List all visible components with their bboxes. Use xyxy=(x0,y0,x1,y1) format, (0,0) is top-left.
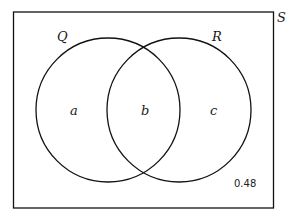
universe-label: S xyxy=(277,10,286,25)
region-c-label: c xyxy=(210,103,218,118)
set-q-circle xyxy=(36,38,180,182)
set-q-label: Q xyxy=(57,29,68,44)
region-b-label: b xyxy=(141,103,149,118)
venn-diagram: S Q R a b c 0.48 xyxy=(0,0,303,218)
set-r-circle xyxy=(107,38,251,182)
outside-value: 0.48 xyxy=(234,178,256,189)
set-r-label: R xyxy=(211,29,222,44)
region-a-label: a xyxy=(70,103,78,118)
